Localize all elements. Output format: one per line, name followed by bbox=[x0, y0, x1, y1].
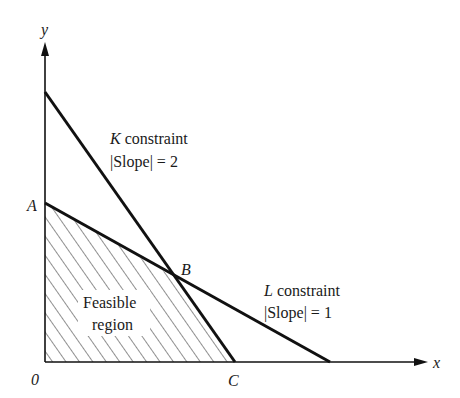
x-axis-arrow-icon bbox=[414, 358, 428, 366]
y-axis-arrow-icon bbox=[41, 42, 49, 56]
feasible-region-line1: Feasible bbox=[83, 294, 136, 311]
l-constraint-label: L constraint |Slope| = 1 bbox=[263, 282, 341, 322]
l-letter: L bbox=[263, 282, 273, 299]
feasible-region-line2: region bbox=[92, 316, 133, 334]
point-b-label: B bbox=[181, 261, 191, 278]
point-a-label: A bbox=[26, 197, 37, 214]
l-word: constraint bbox=[273, 282, 341, 299]
k-word: constraint bbox=[121, 130, 189, 147]
svg-text:L constraint: L constraint bbox=[263, 282, 341, 299]
origin-label: 0 bbox=[31, 371, 39, 388]
k-slope-text: |Slope| = 2 bbox=[110, 153, 178, 171]
l-slope-text: |Slope| = 1 bbox=[264, 304, 332, 322]
k-constraint-label: K constraint |Slope| = 2 bbox=[109, 130, 188, 171]
feasible-region-diagram: y x 0 A B C K constraint |Slope| = 2 L c… bbox=[0, 0, 460, 398]
y-axis-label: y bbox=[39, 21, 49, 39]
point-c-label: C bbox=[228, 372, 239, 389]
x-axis-label: x bbox=[432, 354, 440, 371]
svg-text:K constraint: K constraint bbox=[109, 130, 188, 147]
